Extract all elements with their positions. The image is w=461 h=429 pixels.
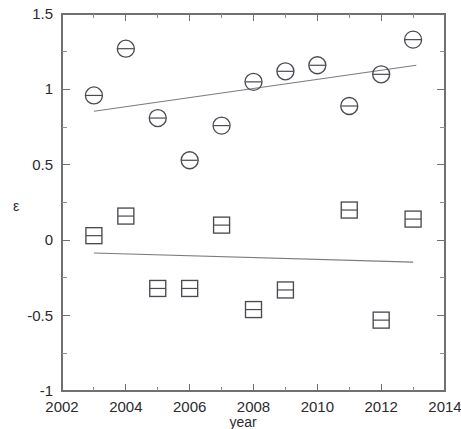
y-tick-label: 1 [45, 80, 53, 97]
data-series-square [86, 202, 421, 328]
data-point [149, 110, 166, 127]
data-point [85, 87, 102, 104]
data-point [214, 217, 230, 233]
data-point [277, 282, 293, 298]
trend-line-square-series [94, 253, 413, 262]
data-point [405, 31, 422, 48]
x-tick-label: 2014 [428, 398, 461, 415]
trend-lines [94, 65, 416, 262]
y-axis-minor-ticks [62, 52, 445, 354]
y-tick-label: 0.5 [32, 156, 53, 173]
y-axis-tick-labels: -1-0.500.511.5 [27, 5, 53, 399]
x-tick-label: 2008 [237, 398, 270, 415]
data-point [373, 66, 390, 83]
x-tick-label: 2006 [173, 398, 206, 415]
data-point [309, 57, 326, 74]
y-tick-label: -0.5 [27, 307, 53, 324]
data-point [213, 117, 230, 134]
data-point [277, 63, 294, 80]
data-point [86, 228, 102, 244]
chart-figure: 2002200420062008201020122014 -1-0.500.51… [0, 0, 461, 429]
x-axis-major-ticks [62, 14, 445, 391]
trend-line-circle-series [94, 65, 416, 111]
x-tick-label: 2010 [301, 398, 334, 415]
data-point [246, 302, 262, 318]
x-axis-title: year [229, 414, 257, 429]
data-point [405, 211, 421, 227]
y-tick-label: 0 [45, 231, 53, 248]
data-point [373, 312, 389, 328]
y-axis-major-ticks [62, 14, 445, 391]
data-point [117, 40, 134, 57]
y-axis-title: ε [13, 198, 19, 214]
data-point [182, 280, 198, 296]
axis-frame [62, 14, 445, 391]
x-axis-minor-ticks [94, 14, 413, 391]
data-point [118, 208, 134, 224]
data-series-circle [85, 31, 421, 169]
scatter-plot-svg: 2002200420062008201020122014 -1-0.500.51… [0, 0, 461, 429]
plot-axes [62, 14, 445, 391]
data-point [341, 202, 357, 218]
data-point [341, 97, 358, 114]
x-axis-tick-labels: 2002200420062008201020122014 [45, 398, 461, 415]
x-tick-label: 2002 [45, 398, 78, 415]
data-point [245, 73, 262, 90]
data-point [150, 280, 166, 296]
y-tick-label: 1.5 [32, 5, 53, 22]
data-point [181, 152, 198, 169]
x-tick-label: 2004 [109, 398, 142, 415]
y-tick-label: -1 [40, 382, 53, 399]
x-tick-label: 2012 [364, 398, 397, 415]
